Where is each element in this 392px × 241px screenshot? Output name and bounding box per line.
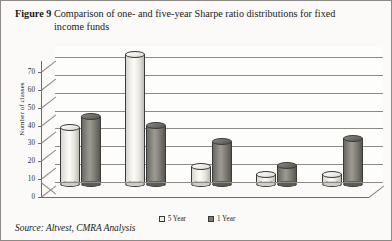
y-axis-title: Number of classes: [18, 54, 26, 164]
bar-top-ellipse: [125, 51, 145, 58]
figure-title-line-1: Comparison of one- and five-year Sharpe …: [54, 8, 336, 19]
legend-label: 5 Year: [168, 215, 186, 223]
y-tick-mark-20: [38, 161, 42, 162]
gridline-connector-50: [41, 96, 57, 108]
figure-title-line-2: income funds: [54, 20, 383, 33]
bar-top-ellipse: [60, 124, 80, 131]
bar-group-2: [125, 54, 166, 183]
gridline-50: [55, 93, 383, 94]
y-tick-label-30: 30: [28, 139, 35, 147]
source-note: Source: Altvest, CMRA Analysis: [15, 223, 135, 233]
y-tick-label-20: 20: [28, 157, 35, 165]
bar-top-ellipse: [343, 135, 363, 142]
y-tick-mark-30: [38, 143, 42, 144]
bar-body: [60, 128, 80, 183]
bar-5-year-3[interactable]: [191, 167, 211, 183]
bar-body: [343, 138, 363, 183]
plot-area: 010203040506070: [41, 47, 383, 199]
floor-right-edge: [369, 185, 385, 197]
legend-swatch-icon: [159, 216, 165, 222]
bar-1-year-4[interactable]: [277, 165, 297, 183]
bar-1-year-5[interactable]: [343, 138, 363, 183]
bar-top-ellipse: [256, 171, 276, 178]
figure-title: Figure 9 Comparison of one- and five-yea…: [15, 7, 383, 33]
bar-1-year-3[interactable]: [212, 142, 232, 183]
bar-1-year-1[interactable]: [81, 117, 101, 183]
plot-floor: [41, 182, 383, 198]
bar-body: [81, 117, 101, 183]
bar-top-ellipse: [277, 162, 297, 169]
bar-body: [146, 126, 166, 183]
figure-panel: Figure 9 Comparison of one- and five-yea…: [0, 0, 392, 241]
y-tick-label-50: 50: [28, 104, 35, 112]
bar-body: [125, 54, 145, 183]
bar-body: [212, 142, 232, 183]
bar-5-year-1[interactable]: [60, 128, 80, 183]
chart-area: Number of classes 010203040506070 Below …: [11, 45, 383, 203]
bar-group-1: [60, 117, 101, 183]
figure-number: Figure 9: [15, 8, 51, 19]
y-tick-mark-70: [38, 72, 42, 73]
gridline-connector-30: [41, 132, 57, 144]
legend-swatch-icon: [208, 216, 214, 222]
bar-1-year-2[interactable]: [146, 126, 166, 183]
bar-group-3: [191, 142, 232, 183]
y-tick-mark-10: [38, 179, 42, 180]
gridline-60: [55, 75, 383, 76]
gridline-connector-70: [41, 60, 57, 72]
gridline-30: [55, 128, 383, 129]
bar-group-5: [322, 138, 363, 183]
y-tick-mark-40: [38, 126, 42, 127]
gridline-connector-20: [41, 150, 57, 162]
y-tick-label-70: 70: [28, 68, 35, 76]
y-tick-mark-50: [38, 108, 42, 109]
legend-label: 1 Year: [217, 215, 235, 223]
bar-group-4: [256, 165, 297, 183]
gridline-70: [55, 57, 383, 58]
legend-item-5-year[interactable]: 5 Year: [159, 215, 186, 223]
bar-5-year-2[interactable]: [125, 54, 145, 183]
gridline-connector-10: [41, 168, 57, 180]
bar-top-ellipse: [322, 171, 342, 178]
floor-back-edge: [55, 182, 383, 183]
floor-left-edge: [41, 182, 57, 194]
y-tick-label-60: 60: [28, 86, 35, 94]
y-tick-label-0: 0: [31, 193, 35, 201]
y-tick-mark-60: [38, 90, 42, 91]
y-tick-label-10: 10: [28, 175, 35, 183]
gridline-40: [55, 111, 383, 112]
chart-legend: 5 Year1 Year: [1, 215, 392, 223]
legend-item-1-year[interactable]: 1 Year: [208, 215, 235, 223]
gridline-connector-40: [41, 114, 57, 126]
gridline-connector-60: [41, 78, 57, 90]
floor-front-edge: [41, 197, 369, 198]
y-tick-label-40: 40: [28, 122, 35, 130]
